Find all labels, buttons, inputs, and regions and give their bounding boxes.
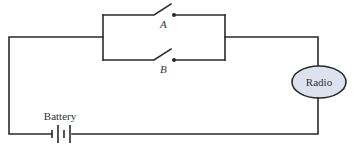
battery-icon xyxy=(52,125,70,143)
switch-a-label: A xyxy=(159,18,167,30)
battery-label: Battery xyxy=(44,110,77,122)
wire-radio-return xyxy=(72,98,318,134)
wire-to-radio xyxy=(225,37,318,66)
switch-b-label: B xyxy=(160,63,167,75)
switch-b[interactable] xyxy=(103,49,225,62)
switch-a[interactable] xyxy=(103,4,225,17)
radio-label: Radio xyxy=(306,76,333,88)
circuit-diagram: A B Radio Battery xyxy=(0,0,355,147)
